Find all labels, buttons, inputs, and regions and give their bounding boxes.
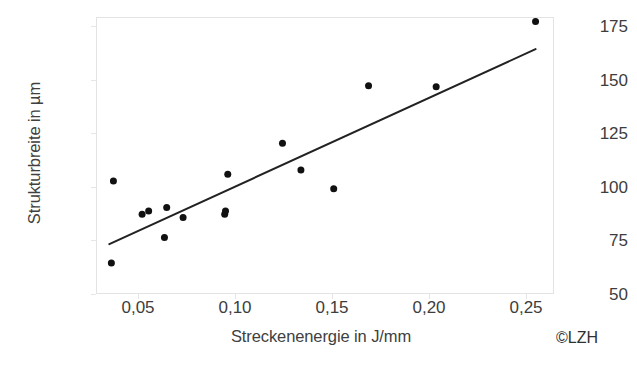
data-point bbox=[145, 207, 152, 214]
y-tick-label: 100 bbox=[545, 178, 637, 195]
data-point bbox=[224, 171, 231, 178]
x-tick-mark bbox=[235, 294, 236, 299]
data-point bbox=[222, 207, 229, 214]
data-point bbox=[163, 204, 170, 211]
data-point bbox=[433, 83, 440, 90]
x-axis-title: Streckenenergie in J/mm bbox=[96, 327, 546, 346]
plot-data-layer bbox=[96, 17, 554, 294]
data-point bbox=[180, 214, 187, 221]
y-tick-label: 175 bbox=[545, 18, 637, 35]
data-point bbox=[330, 185, 337, 192]
trendline bbox=[109, 49, 535, 244]
y-tick-label: 150 bbox=[545, 71, 637, 88]
x-tick-label: 0,10 bbox=[200, 299, 270, 316]
x-tick-mark bbox=[526, 294, 527, 299]
data-point bbox=[108, 259, 115, 266]
x-tick-mark bbox=[138, 294, 139, 299]
y-tick-label: 75 bbox=[545, 232, 637, 249]
x-tick-mark bbox=[332, 294, 333, 299]
x-tick-label: 0,05 bbox=[103, 299, 173, 316]
y-tick-mark bbox=[91, 294, 96, 295]
chart-figure: Strukturbreite in µm 50 75 100 125 150 1… bbox=[0, 0, 637, 370]
data-point bbox=[365, 82, 372, 89]
data-point bbox=[297, 166, 304, 173]
y-axis-title: Strukturbreite in µm bbox=[14, 3, 54, 303]
data-point bbox=[110, 177, 117, 184]
data-point bbox=[161, 234, 168, 241]
x-tick-label: 0,15 bbox=[297, 299, 367, 316]
x-tick-mark bbox=[429, 294, 430, 299]
data-point bbox=[139, 211, 146, 218]
scatter-markers bbox=[108, 18, 539, 267]
data-point bbox=[279, 140, 286, 147]
x-tick-label: 0,20 bbox=[394, 299, 464, 316]
data-point bbox=[532, 18, 539, 25]
copyright-watermark: ©LZH bbox=[556, 329, 598, 347]
y-tick-label: 125 bbox=[545, 125, 637, 142]
x-tick-label: 0,25 bbox=[491, 299, 561, 316]
